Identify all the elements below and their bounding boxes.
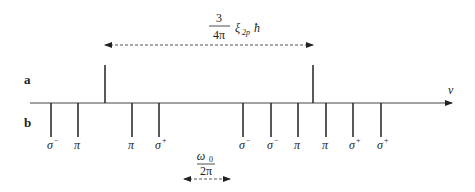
zeeman-splitting-diagram: 3 4π ξ 2p ħ a b v σ − π π σ + σ − σ xyxy=(0,0,475,192)
label-b-8: π xyxy=(322,138,329,152)
xi-subscript: 2p xyxy=(242,28,250,37)
lines-b xyxy=(51,103,381,137)
label-b-1: σ xyxy=(47,138,54,152)
label-b-4-sup: + xyxy=(162,136,167,145)
label-b-10: σ xyxy=(377,138,384,152)
bottom-fraction-numerator: ω xyxy=(197,149,205,163)
row-label-a: a xyxy=(24,72,31,87)
label-b-7: π xyxy=(294,138,301,152)
polarization-labels: σ − π π σ + σ − σ − π π σ + σ + xyxy=(47,136,389,152)
bottom-fraction-denominator: 2π xyxy=(200,164,212,178)
label-b-5-sup: − xyxy=(246,136,251,145)
label-b-6-sup: − xyxy=(274,136,279,145)
label-b-9: σ xyxy=(349,138,356,152)
label-b-3: π xyxy=(128,138,135,152)
label-b-2: π xyxy=(74,138,81,152)
bottom-fraction-numerator-sub: 0 xyxy=(209,155,213,164)
label-b-6: σ xyxy=(267,138,274,152)
hbar-symbol: ħ xyxy=(254,21,260,35)
label-b-1-sup: − xyxy=(54,136,59,145)
axis-label-v: v xyxy=(448,83,454,97)
bottom-annotation: ω 0 2π xyxy=(197,149,215,178)
top-fraction-numerator: 3 xyxy=(216,11,222,25)
xi-symbol: ξ xyxy=(235,21,241,35)
label-b-5: σ xyxy=(239,138,246,152)
row-label-b: b xyxy=(24,115,31,130)
top-fraction-denominator: 4π xyxy=(213,28,225,42)
label-b-9-sup: + xyxy=(356,136,361,145)
label-b-10-sup: + xyxy=(384,136,389,145)
label-b-4: σ xyxy=(155,138,162,152)
top-annotation: 3 4π ξ 2p ħ xyxy=(209,11,260,42)
